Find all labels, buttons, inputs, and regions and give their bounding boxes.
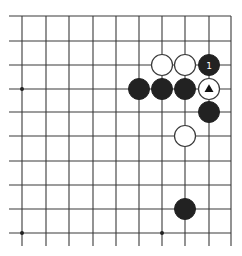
white-stone[interactable] [152, 55, 173, 76]
black-stone[interactable] [175, 199, 196, 220]
black-stone[interactable] [129, 79, 150, 100]
star-point [20, 231, 24, 235]
black-stone[interactable] [199, 102, 220, 123]
white-stone[interactable] [175, 126, 196, 147]
black-stone[interactable] [152, 79, 173, 100]
go-board[interactable]: 1 [0, 0, 242, 256]
board-grid [9, 16, 231, 246]
black-stone[interactable] [175, 79, 196, 100]
star-point [20, 87, 24, 91]
move-number-label: 1 [206, 61, 212, 71]
white-stone[interactable] [175, 55, 196, 76]
stones-layer: 1 [129, 55, 220, 220]
black-stone[interactable]: 1 [199, 55, 220, 76]
white-stone[interactable] [199, 79, 220, 100]
star-point [160, 231, 164, 235]
